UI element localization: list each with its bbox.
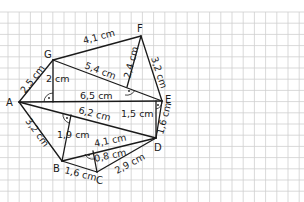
vertex-C: C bbox=[96, 175, 103, 186]
right-angle-dot-D bbox=[157, 104, 159, 106]
right-angle-dot-B bbox=[66, 117, 68, 119]
geometry-diagram: A G F E D C B 2,5 cm 4,1 cm 3,2 cm 2 cm … bbox=[0, 0, 304, 202]
label-ED: 1,6 cm bbox=[154, 101, 173, 135]
label-D-height: 1,5 cm bbox=[121, 108, 154, 119]
vertex-D: D bbox=[154, 142, 162, 153]
label-G-height: 2 cm bbox=[46, 73, 70, 84]
label-AE: 6,5 cm bbox=[80, 90, 113, 101]
label-AB: 3,2 cm bbox=[23, 116, 51, 149]
grid-paper bbox=[0, 12, 304, 202]
vertex-F: F bbox=[137, 23, 143, 34]
label-B-height: 1,9 cm bbox=[57, 129, 90, 140]
label-F-height: 2,4 cm bbox=[121, 45, 140, 79]
right-angle-dot-G bbox=[48, 97, 50, 99]
label-AD: 6,2 cm bbox=[78, 104, 112, 123]
right-angle-dot-F bbox=[128, 90, 130, 92]
vertex-A: A bbox=[6, 97, 13, 108]
label-GF: 4,1 cm bbox=[82, 27, 116, 46]
vertex-B: B bbox=[53, 163, 60, 174]
right-angle-dot-C bbox=[88, 154, 90, 156]
vertex-G: G bbox=[44, 49, 52, 60]
